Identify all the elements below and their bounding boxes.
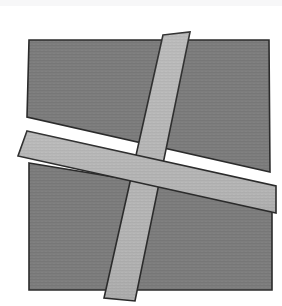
figure-canvas [0,0,282,306]
crossing-bands-figure [0,0,282,306]
